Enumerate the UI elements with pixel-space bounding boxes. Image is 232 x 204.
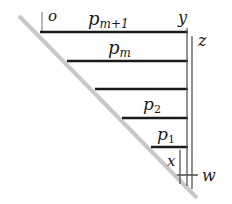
diagram-canvas: o y z x w pm+1 pm p2 p1 (0, 0, 232, 204)
label-x: x (167, 152, 176, 170)
label-origin: o (48, 7, 57, 25)
label-p-2: p2 (143, 94, 161, 116)
label-p-m: pm (108, 37, 131, 60)
label-p-1: p1 (157, 124, 175, 146)
label-w: w (202, 166, 216, 185)
label-p-m-plus-1: pm+1 (88, 8, 129, 31)
label-z: z (197, 31, 207, 50)
label-y: y (177, 8, 188, 27)
